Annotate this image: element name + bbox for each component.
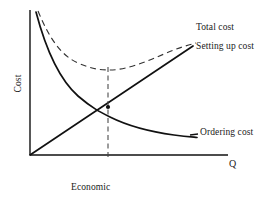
total-cost-curve [38,11,196,70]
intersection-marker [106,105,110,109]
eoq-annotation-line-1: Economic [71,182,110,194]
setting-up-cost-label: Setting up cost [196,41,254,52]
ordering-cost-leader [190,134,198,135]
ordering-cost-curve [36,12,197,138]
total-cost-label: Total cost [196,22,234,33]
y-axis-label: Cost [13,64,24,104]
x-axis-label: Q [229,158,236,169]
ordering-cost-label: Ordering cost [200,127,253,138]
eoq-annotation: Economic order quantity [71,159,110,197]
eoq-chart-figure: Total cost Setting up cost Ordering cost… [0,0,277,197]
